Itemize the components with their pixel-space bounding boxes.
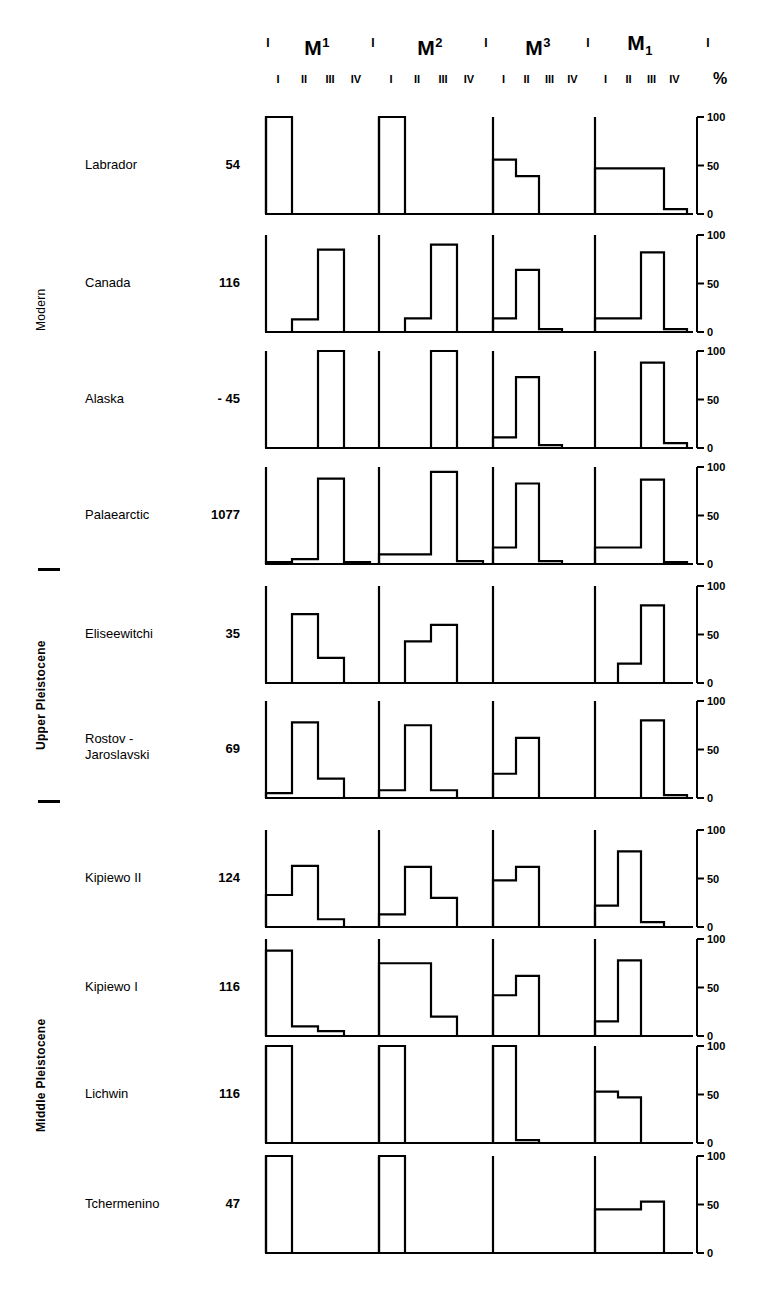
bar-group-M2 <box>379 725 483 798</box>
tooth-group-separator-2: I <box>480 30 492 56</box>
stage-header-row: IIIIIIIVIIIIIIIVIIIIIIIVIIIIIIIV% <box>0 68 777 94</box>
stage-tick-4-2: II <box>617 68 640 90</box>
bar-group-M3 <box>493 270 585 332</box>
stage-tick-3-4: IV <box>561 68 584 90</box>
y-tick-label-1-100: 100 <box>707 230 725 241</box>
row-count-9: 47 <box>185 1196 240 1212</box>
y-tick-label-2-100: 100 <box>707 346 725 357</box>
bar-group-M2 <box>379 351 483 448</box>
bar-group-M2 <box>379 472 483 564</box>
y-tick-label-9-100: 100 <box>707 1151 725 1162</box>
row-label-4: Eliseewitchi <box>85 626 153 642</box>
row-count-7: 116 <box>185 979 240 995</box>
y-tick-label-2-0: 0 <box>707 443 713 454</box>
plot-row-8 <box>265 1042 695 1145</box>
bar-group-M1 <box>266 1156 370 1253</box>
tooth-label-1: M1 <box>265 30 369 61</box>
row-label-9: Tchermenino <box>85 1196 159 1212</box>
y-tick-label-6-100: 100 <box>707 825 725 836</box>
y-tick-label-0-0: 0 <box>707 209 713 220</box>
stage-tick-3-1: I <box>492 68 515 90</box>
y-axis-3: 100500 <box>693 463 763 566</box>
stage-tick-4-3: III <box>640 68 663 90</box>
row-label-8: Lichwin <box>85 1086 128 1102</box>
y-tick-label-8-50: 50 <box>707 1090 719 1101</box>
y-tick-label-0-100: 100 <box>707 112 725 123</box>
era-label-upper-pleistocene: Upper Pleistocene <box>34 600 48 790</box>
tooth-label-3: M3 <box>492 30 584 61</box>
bar-group-M1 lower <box>595 720 687 798</box>
tooth-label-2: M2 <box>378 30 482 61</box>
bar-group-M1 lower <box>595 252 687 332</box>
stage-tick-2-3: III <box>430 68 456 90</box>
plot-row-9 <box>265 1152 695 1255</box>
bar-group-M3 <box>493 738 585 798</box>
y-axis-0: 100500 <box>693 113 763 216</box>
bar-group-M1 <box>266 351 370 448</box>
row-count-3: 1077 <box>185 507 240 523</box>
stage-tick-3-3: III <box>538 68 561 90</box>
stage-tick-1-3: III <box>317 68 343 90</box>
bar-group-M1 lower <box>595 605 687 683</box>
era-separator-0 <box>38 568 60 571</box>
y-tick-label-2-50: 50 <box>707 395 719 406</box>
y-tick-label-8-0: 0 <box>707 1138 713 1149</box>
row-count-5: 69 <box>185 741 240 757</box>
bar-group-M2 <box>379 117 483 214</box>
bar-group-M1 <box>266 614 370 683</box>
bar-group-M1 lower <box>595 1092 687 1143</box>
plot-row-0 <box>265 113 695 216</box>
bar-group-M3 <box>493 976 585 1036</box>
row-count-6: 124 <box>185 870 240 886</box>
row-count-1: 116 <box>185 275 240 291</box>
bar-group-M2 <box>379 1046 483 1143</box>
row-label-7: Kipiewo I <box>85 979 138 995</box>
row-label-1: Canada <box>85 275 131 291</box>
y-tick-label-6-50: 50 <box>707 874 719 885</box>
row-count-2: - 45 <box>185 391 240 407</box>
y-tick-label-9-50: 50 <box>707 1200 719 1211</box>
row-label-6: Kipiewo II <box>85 870 141 886</box>
bar-group-M1 lower <box>595 168 687 214</box>
stage-tick-3-2: II <box>515 68 538 90</box>
y-tick-label-5-100: 100 <box>707 696 725 707</box>
era-label-middle-pleistocene: Middle Pleistocene <box>34 960 48 1190</box>
plot-row-2 <box>265 347 695 450</box>
y-tick-label-6-0: 0 <box>707 922 713 933</box>
bar-group-M2 <box>379 245 483 332</box>
stage-tick-4-1: I <box>594 68 617 90</box>
y-tick-label-3-50: 50 <box>707 511 719 522</box>
row-label-0: Labrador <box>85 157 137 173</box>
row-label-5: Rostov - Jaroslavski <box>85 731 149 763</box>
figure-root: IM1IM2IM3IM1IIIIIIIIVIIIIIIIVIIIIIIIVIII… <box>0 0 777 1308</box>
era-separator-1 <box>38 800 60 803</box>
row-count-4: 35 <box>185 626 240 642</box>
bar-group-M2 <box>379 625 483 683</box>
bar-group-M3 <box>493 1046 585 1143</box>
plot-row-1 <box>265 231 695 334</box>
stage-tick-1-4: IV <box>343 68 369 90</box>
bar-group-M3 <box>493 160 585 214</box>
stage-tick-4-4: IV <box>663 68 686 90</box>
stage-tick-1-2: II <box>291 68 317 90</box>
stage-tick-2-4: IV <box>456 68 482 90</box>
bar-group-M3 <box>493 483 585 564</box>
y-axis-2: 100500 <box>693 347 763 450</box>
row-count-8: 116 <box>185 1086 240 1102</box>
y-tick-label-7-100: 100 <box>707 934 725 945</box>
y-tick-label-4-100: 100 <box>707 581 725 592</box>
percent-axis-label: % <box>705 68 735 90</box>
bar-group-M1 lower <box>595 851 687 927</box>
plot-row-3 <box>265 463 695 566</box>
row-label-2: Alaska <box>85 391 124 407</box>
y-tick-label-8-100: 100 <box>707 1041 725 1052</box>
row-count-0: 54 <box>185 157 240 173</box>
y-tick-label-7-50: 50 <box>707 983 719 994</box>
y-axis-6: 100500 <box>693 826 763 929</box>
bar-group-M1 lower <box>595 960 687 1036</box>
tooth-group-separator-3: I <box>582 30 594 56</box>
y-tick-label-5-0: 0 <box>707 793 713 804</box>
tooth-group-separator-4: I <box>702 30 714 56</box>
bar-group-M1 <box>266 117 370 214</box>
y-tick-label-0-50: 50 <box>707 161 719 172</box>
